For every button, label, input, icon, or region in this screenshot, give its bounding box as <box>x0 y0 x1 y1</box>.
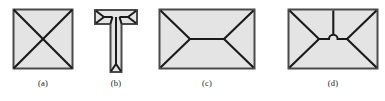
figure-a <box>12 8 74 70</box>
figure-a-drawing <box>12 8 74 70</box>
figure-c <box>158 8 256 70</box>
four-part-figure-panel: · ·· · · ····· ·· (a) <box>0 0 385 101</box>
figure-d <box>287 8 379 70</box>
figure-b <box>93 8 139 74</box>
figure-c-drawing <box>158 8 256 70</box>
figure-d-drawing <box>287 8 379 70</box>
figure-b-caption: (b) <box>93 78 139 88</box>
figure-c-caption: (c) <box>158 78 256 88</box>
figure-d-caption: (d) <box>287 78 379 88</box>
figure-a-caption: (a) <box>12 78 74 88</box>
cropped-text-artifact-ink: · ·· · · ····· ·· <box>0 0 385 4</box>
cropped-text-artifact: · ·· · · ····· ·· <box>0 0 385 5</box>
figure-b-drawing <box>93 8 139 74</box>
